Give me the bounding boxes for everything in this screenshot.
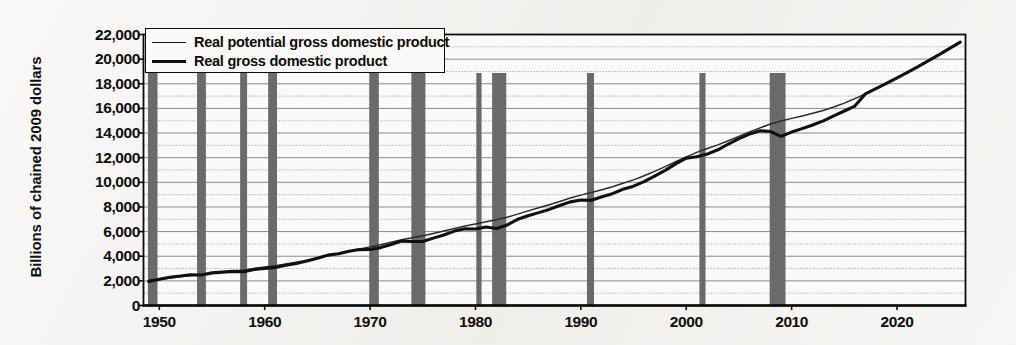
gdp-chart: Billions of chained 2009 dollars 02,0004…: [0, 0, 1016, 345]
x-tick-label: 2010: [775, 313, 808, 331]
x-tick-label: 1950: [143, 313, 176, 331]
x-tick-label: 1960: [248, 313, 281, 331]
x-tick-label: 1970: [354, 313, 387, 331]
x-tick-label: 2020: [881, 313, 914, 331]
legend-label-potential: Real potential gross domestic product: [194, 35, 449, 50]
legend-item-potential-gdp: Real potential gross domestic product: [152, 33, 438, 52]
chart-legend: Real potential gross domestic product Re…: [145, 28, 445, 73]
x-tick-label: 2000: [670, 313, 703, 331]
x-tick-label: 1990: [564, 313, 597, 331]
x-tick-label: 1980: [459, 313, 492, 331]
legend-line-icon-actual: [152, 57, 186, 67]
legend-item-actual-gdp: Real gross domestic product: [152, 52, 438, 71]
legend-label-actual: Real gross domestic product: [194, 54, 387, 69]
legend-line-icon-potential: [152, 38, 186, 48]
